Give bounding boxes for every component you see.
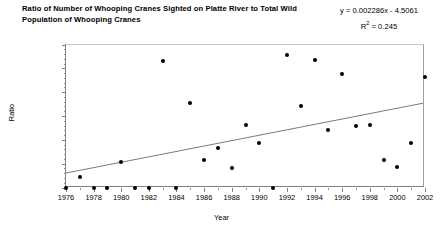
data-point: [133, 186, 137, 190]
data-point: [147, 186, 151, 190]
data-point: [299, 104, 303, 108]
data-point: [216, 146, 220, 150]
x-axis-tick: [315, 188, 316, 192]
data-point: [285, 53, 289, 57]
data-point: [368, 123, 372, 127]
x-axis-minor-tick: [301, 188, 302, 191]
data-point: [313, 58, 317, 62]
x-axis-minor-tick: [384, 188, 385, 191]
x-axis-minor-tick: [328, 188, 329, 191]
x-axis-tick: [121, 188, 122, 192]
chart-title: Ratio of Number of Whooping Cranes Sight…: [22, 4, 322, 25]
y-axis-label: Ratio: [7, 93, 16, 133]
y-axis-minor-tick: [64, 183, 67, 184]
x-axis-minor-tick: [80, 188, 81, 191]
trendline-r-squared: R2 = 0.245: [318, 17, 440, 33]
x-axis-label: Year: [0, 213, 443, 222]
chart-container: Ratio of Number of Whooping Cranes Sight…: [0, 0, 443, 232]
y-axis-minor-tick: [64, 49, 67, 50]
x-axis-tick-label: 1984: [161, 193, 191, 202]
y-axis-tick: [62, 68, 66, 69]
y-axis-minor-tick: [64, 54, 67, 55]
y-axis-minor-tick: [64, 64, 67, 65]
trendline-equation: y = 0.002286x - 4.5061: [318, 5, 440, 17]
data-point: [271, 186, 275, 190]
x-axis-minor-tick: [411, 188, 412, 191]
x-axis-tick-label: 1980: [106, 193, 136, 202]
x-axis-tick-label: 1998: [355, 193, 385, 202]
x-axis-tick-label: 1992: [272, 193, 302, 202]
x-axis-minor-tick: [356, 188, 357, 191]
y-axis-tick: [62, 140, 66, 141]
y-axis-tick: [62, 92, 66, 93]
x-axis-tick: [397, 188, 398, 192]
x-axis-minor-tick: [163, 188, 164, 191]
x-axis-tick: [204, 188, 205, 192]
y-axis-tick: [62, 45, 66, 46]
y-axis-minor-tick: [64, 173, 67, 174]
data-point: [382, 158, 386, 162]
y-axis-minor-tick: [64, 87, 67, 88]
y-axis-minor-tick: [64, 102, 67, 103]
x-axis-tick: [342, 188, 343, 192]
y-axis-minor-tick: [64, 154, 67, 155]
x-axis-tick: [287, 188, 288, 192]
data-point: [105, 186, 109, 190]
x-axis-tick: [259, 188, 260, 192]
x-axis-tick-label: 2002: [410, 193, 440, 202]
y-axis-minor-tick: [64, 83, 67, 84]
y-axis-minor-tick: [64, 130, 67, 131]
y-axis-minor-tick: [64, 121, 67, 122]
data-point: [161, 59, 165, 63]
x-axis-minor-tick: [218, 188, 219, 191]
y-axis-minor-tick: [64, 168, 67, 169]
x-axis-tick-label: 1982: [134, 193, 164, 202]
y-axis-minor-tick: [64, 126, 67, 127]
data-point: [64, 186, 68, 190]
trendline: [66, 45, 423, 186]
x-axis-tick: [232, 188, 233, 192]
x-axis-tick-label: 2000: [382, 193, 412, 202]
y-axis-minor-tick: [64, 73, 67, 74]
y-axis-minor-tick: [64, 78, 67, 79]
y-axis-minor-tick: [64, 159, 67, 160]
y-axis-minor-tick: [64, 111, 67, 112]
x-axis-tick-label: 1990: [244, 193, 274, 202]
data-point: [423, 75, 427, 79]
trendline-annotation: y = 0.002286x - 4.5061 R2 = 0.245: [318, 5, 440, 33]
y-axis-minor-tick: [64, 149, 67, 150]
y-axis-tick: [62, 116, 66, 117]
x-axis-tick-label: 1978: [79, 193, 109, 202]
y-axis-minor-tick: [64, 97, 67, 98]
y-axis-minor-tick: [64, 145, 67, 146]
data-point: [244, 123, 248, 127]
y-axis-tick: [62, 164, 66, 165]
x-axis-tick: [370, 188, 371, 192]
y-axis-minor-tick: [64, 59, 67, 60]
x-axis-tick-label: 1994: [300, 193, 330, 202]
y-axis-minor-tick: [64, 178, 67, 179]
x-axis-tick-label: 1996: [327, 193, 357, 202]
data-point: [92, 186, 96, 190]
x-axis-tick-label: 1986: [189, 193, 219, 202]
x-axis-tick-label: 1988: [217, 193, 247, 202]
x-axis-tick: [425, 188, 426, 192]
r2-value: = 0.245: [369, 22, 397, 31]
x-axis-minor-tick: [190, 188, 191, 191]
x-axis-tick-label: 1976: [51, 193, 81, 202]
x-axis-minor-tick: [246, 188, 247, 191]
y-axis-minor-tick: [64, 135, 67, 136]
data-point: [174, 186, 178, 190]
data-point: [354, 124, 358, 128]
y-axis-minor-tick: [64, 106, 67, 107]
plot-area: 0.00000.02000.04000.06000.08000.10000.12…: [65, 44, 424, 187]
data-point: [230, 166, 234, 170]
